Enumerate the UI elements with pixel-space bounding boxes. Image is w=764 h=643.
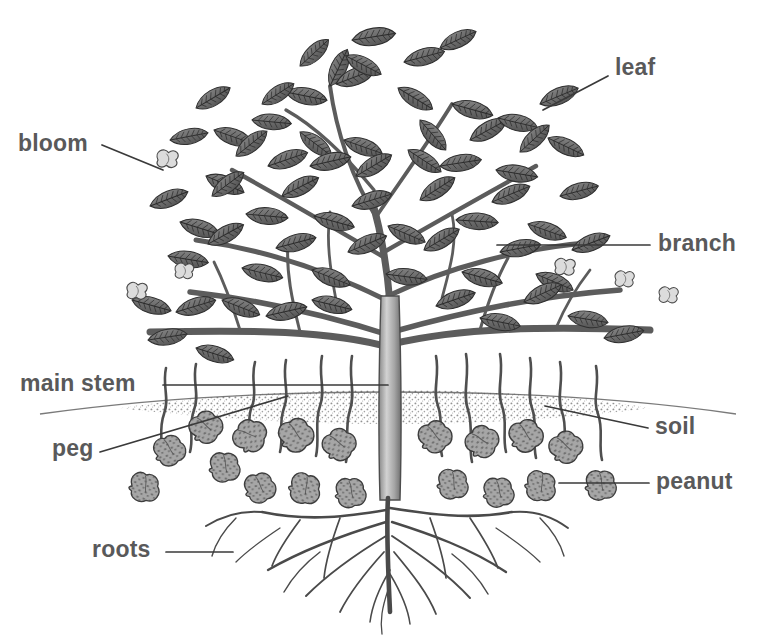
label-soil: soil <box>655 415 695 438</box>
canopy-foliage <box>127 25 678 368</box>
bloom-leader-line <box>102 145 163 170</box>
label-main-stem: main stem <box>20 372 136 395</box>
root-system <box>206 498 568 634</box>
label-bloom: bloom <box>18 132 88 155</box>
main-stem <box>379 296 401 500</box>
label-leaf: leaf <box>615 56 655 79</box>
label-peanut: peanut <box>656 470 733 493</box>
label-peg: peg <box>52 437 94 460</box>
peanut-plant-diagram: bloom leaf branch main stem peg soil pea… <box>0 0 764 643</box>
label-roots: roots <box>92 538 151 561</box>
label-branch: branch <box>658 232 736 255</box>
